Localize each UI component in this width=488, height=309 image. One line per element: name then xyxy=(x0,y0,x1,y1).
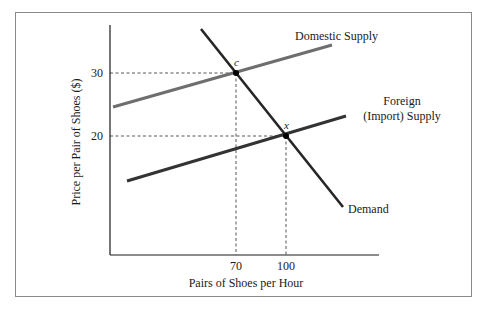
x-tick-70: 70 xyxy=(230,259,242,273)
x-tick-100: 100 xyxy=(277,259,295,273)
y-axis-title: Price per Pair of Shoes ($) xyxy=(69,79,83,206)
y-tick-20: 20 xyxy=(91,129,103,143)
x-axis-title: Pairs of Shoes per Hour xyxy=(189,276,304,290)
figure-frame xyxy=(16,13,472,297)
point-c-label: c xyxy=(234,56,239,68)
demand-label: Demand xyxy=(348,202,389,216)
point-x-marker xyxy=(283,133,289,139)
point-c-marker xyxy=(233,70,239,76)
point-x-label: x xyxy=(283,119,289,131)
domestic-supply-label: Domestic Supply xyxy=(295,29,378,43)
chart-figure: c x 30 20 70 100 Domestic Supply Foreign… xyxy=(0,0,488,309)
foreign-supply-label-line1: Foreign xyxy=(383,94,420,108)
foreign-supply-label-line2: (Import) Supply xyxy=(363,109,441,123)
y-tick-30: 30 xyxy=(91,66,103,80)
